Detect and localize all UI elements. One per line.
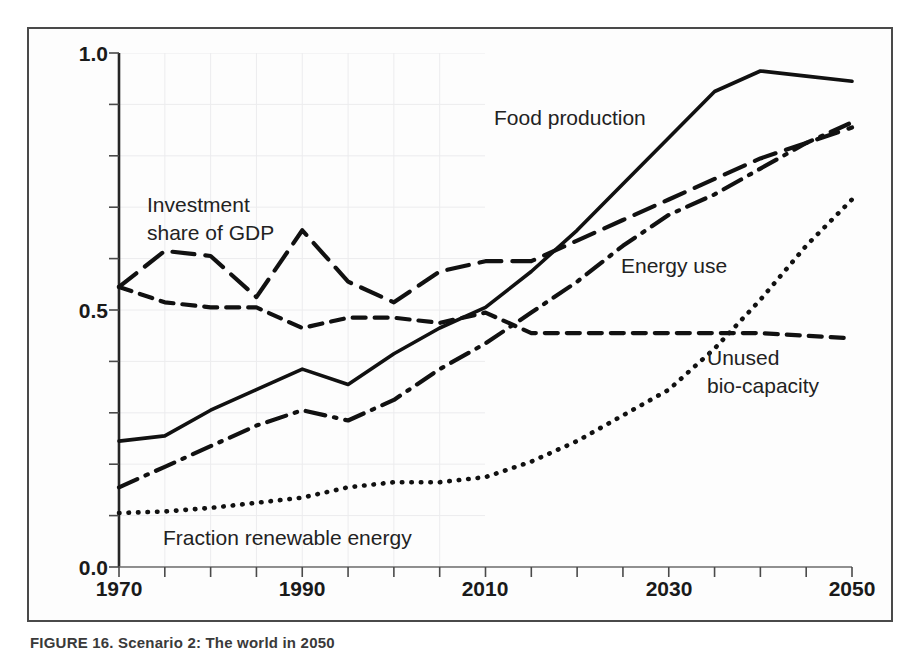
- y-tick-label-1: 1.0: [79, 42, 108, 65]
- series-label-unused-line2: bio-capacity: [707, 374, 820, 397]
- series-line-unused-bio-capacity: [119, 287, 852, 338]
- background-grid: [119, 53, 522, 567]
- x-tick-label-2010: 2010: [462, 577, 509, 600]
- series-label-investment-line1: Investment: [147, 193, 250, 216]
- y-axis-ticks: [109, 53, 119, 567]
- line-chart: 1.0 0.5 0.0 1970 1990 2010 2030 2050 Foo…: [0, 0, 920, 654]
- y-tick-label-0-5: 0.5: [79, 299, 109, 322]
- figure-root: 1.0 0.5 0.0 1970 1990 2010 2030 2050 Foo…: [0, 0, 920, 654]
- x-axis-ticks: [119, 567, 852, 577]
- series-label-energy-use: Energy use: [621, 254, 727, 277]
- figure-caption: FIGURE 16. Scenario 2: The world in 2050: [30, 634, 650, 651]
- x-tick-label-1970: 1970: [96, 577, 143, 600]
- x-tick-label-2030: 2030: [646, 577, 693, 600]
- x-tick-label-2050: 2050: [829, 577, 876, 600]
- series-label-investment-line2: share of GDP: [147, 221, 274, 244]
- y-tick-label-0: 0.0: [79, 556, 108, 579]
- x-tick-label-1990: 1990: [279, 577, 326, 600]
- series-line-energy-use: [119, 122, 852, 487]
- series-label-unused-line1: Unused: [707, 346, 779, 369]
- series-label-food-production: Food production: [494, 106, 646, 129]
- series-label-fraction-renewable-energy: Fraction renewable energy: [163, 526, 412, 549]
